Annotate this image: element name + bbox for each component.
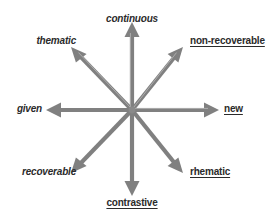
axis-label-recoverable: recoverable — [22, 167, 76, 177]
axis-label-given: given — [17, 104, 42, 114]
axis-label-continuous: continuous — [106, 14, 158, 24]
arrowhead-south — [125, 181, 140, 196]
arrowhead-west — [46, 103, 61, 118]
arrowhead-east — [204, 103, 219, 118]
highlight-northwest — [79, 53, 131, 108]
arrow-southeast — [132, 110, 177, 166]
arrow-northwest — [78, 54, 132, 110]
axis-label-contrastive: contrastive — [106, 198, 157, 208]
arrow-southwest — [78, 110, 132, 166]
star-center-hub — [129, 107, 136, 114]
axis-label-new: new — [224, 104, 243, 114]
axis-label-rhematic: rhematic — [190, 167, 230, 177]
information-structure-star-diagram: continuous non-recoverable new rhematic … — [0, 0, 266, 222]
highlight-northeast — [134, 53, 177, 108]
axis-label-non-recoverable: non-recoverable — [190, 36, 265, 46]
arrowhead-north — [125, 22, 140, 37]
axis-label-thematic: thematic — [36, 36, 76, 46]
